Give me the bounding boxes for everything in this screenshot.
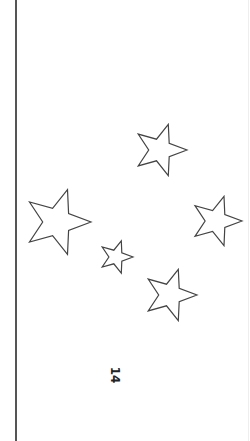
star-icon — [138, 124, 187, 175]
star-icon — [195, 196, 242, 245]
star-illustration — [0, 0, 250, 441]
star-icon — [148, 269, 197, 320]
page-number: 14 — [108, 366, 122, 384]
star-icon — [102, 241, 133, 273]
star-icon — [30, 190, 92, 255]
